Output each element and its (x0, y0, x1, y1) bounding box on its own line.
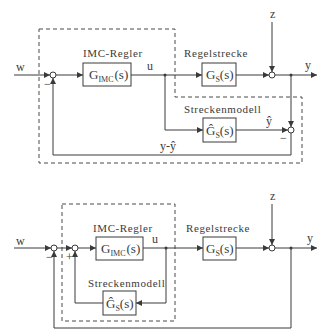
sumA-minus-sign: − (46, 250, 53, 264)
signal-z-label: z (270, 7, 275, 21)
signal-u-label: u (147, 59, 153, 73)
signal-difference-label: y-ŷ (160, 139, 176, 153)
signal-w-label: w (16, 60, 25, 74)
imc-controller-label-2: IMC-Regler (93, 222, 153, 234)
imc-controller-label: IMC-Regler (83, 47, 143, 59)
sum1-minus-sign: − (44, 77, 51, 91)
summing-junction-c (269, 245, 275, 251)
model-label: Streckenmodell (184, 103, 261, 115)
model-tf: ĜS(s) (206, 123, 234, 140)
sumB-plus-sign: + (66, 250, 73, 264)
bottom-diagram: w − + IMC-Regler GIMC(s) u Streckenmodel… (14, 189, 317, 328)
signal-yhat-label: ŷ (266, 114, 272, 128)
summing-junction-3 (288, 127, 294, 133)
plant-tf-2: GS(s) (206, 241, 234, 258)
top-diagram: w − IMC-Regler GIMC(s) u Regelstrecke GS… (14, 7, 317, 163)
model-tf-2: ĜS(s) (106, 296, 134, 313)
summing-junction-b (72, 245, 78, 251)
summing-junction-1 (50, 72, 56, 78)
model-label-2: Streckenmodell (88, 277, 165, 289)
plant-label-2: Regelstrecke (186, 222, 250, 234)
signal-w-label-2: w (16, 234, 25, 248)
sum3-minus-sign: − (280, 131, 287, 145)
signal-u-label-2: u (152, 232, 158, 246)
plant-tf: GS(s) (206, 67, 234, 84)
signal-y-label-2: y (307, 231, 313, 245)
plant-label: Regelstrecke (184, 47, 248, 59)
imc-block-diagrams: w − IMC-Regler GIMC(s) u Regelstrecke GS… (0, 0, 332, 336)
signal-z-label-2: z (270, 189, 275, 203)
summing-junction-2 (269, 72, 275, 78)
signal-y-label: y (305, 58, 311, 72)
